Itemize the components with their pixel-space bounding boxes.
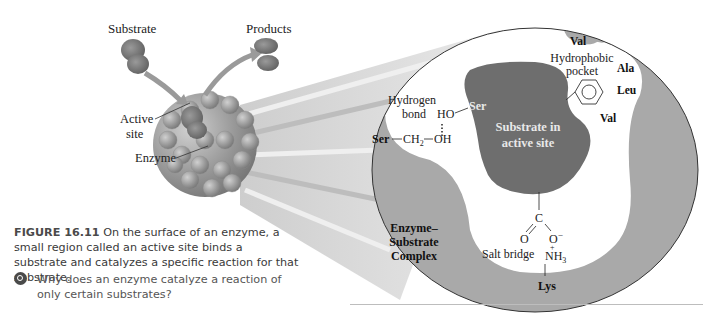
oh-label: OH: [434, 132, 452, 146]
arrow-substrate-in: [145, 73, 180, 100]
hydrophobic-label: Hydrophobic: [550, 51, 613, 65]
hydrophobic-label-2: pocket: [566, 64, 599, 78]
val-top-label: Val: [570, 35, 586, 47]
question-text: Why does an enzyme catalyze a reaction o…: [14, 272, 294, 302]
free-substrate: [121, 39, 149, 74]
hydrogen-bond-label-2: bond: [402, 107, 426, 121]
complex-label: Enzyme–: [390, 221, 438, 235]
complex-label-2: Substrate: [389, 235, 439, 249]
question-icon: [14, 272, 27, 285]
arrow-products-out: [205, 55, 252, 95]
ala-label: Ala: [617, 62, 635, 74]
divider-rule: [350, 304, 703, 305]
hydrogen-bond-label: Hydrogen: [388, 93, 436, 107]
ser-bottom-label: Ser: [372, 132, 390, 146]
label-products: Products: [246, 21, 292, 36]
label-active-site: Active: [120, 112, 154, 126]
substrate-label: Substrate in: [496, 120, 561, 134]
salt-bridge-label: Salt bridge: [482, 247, 534, 261]
val-mid-label: Val: [600, 112, 616, 124]
figure-number: FIGURE 16.11: [14, 226, 100, 239]
label-substrate: Substrate: [108, 21, 157, 36]
substrate-label-2: active site: [502, 136, 555, 150]
lys-label: Lys: [538, 279, 556, 293]
ho-label: HO: [437, 107, 455, 121]
question-prompt: Why does an enzyme catalyze a reaction o…: [14, 272, 294, 302]
label-enzyme: Enzyme: [135, 151, 176, 165]
carbon-label: C: [535, 211, 543, 225]
leu-label: Leu: [617, 84, 637, 96]
label-active-site-2: site: [126, 127, 144, 141]
o-left-label: O: [520, 232, 529, 246]
complex-label-3: Complex: [391, 249, 437, 263]
ser-top-label: Ser: [469, 99, 487, 113]
